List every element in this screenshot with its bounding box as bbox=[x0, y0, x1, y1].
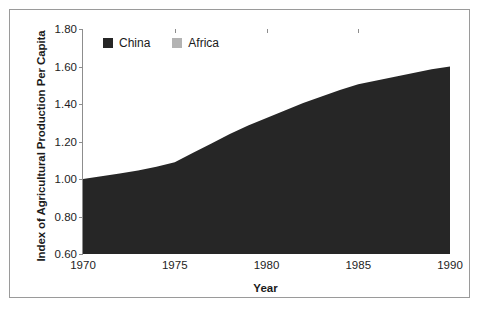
legend-item-africa: Africa bbox=[172, 37, 219, 49]
x-tick-label: 1990 bbox=[437, 259, 463, 271]
x-tick-mark bbox=[358, 29, 359, 33]
x-tick-mark bbox=[175, 29, 176, 33]
plot-area: 0.600.801.001.201.401.601.80 19701975198… bbox=[82, 29, 449, 254]
series-layer bbox=[83, 67, 450, 255]
y-tick-mark bbox=[79, 254, 83, 255]
y-tick-mark bbox=[79, 104, 83, 105]
x-tick-mark bbox=[267, 29, 268, 33]
area-chart-svg bbox=[83, 29, 450, 254]
y-tick-mark bbox=[79, 217, 83, 218]
x-tick-label: 1975 bbox=[162, 259, 188, 271]
legend-swatch-china bbox=[103, 38, 113, 48]
legend-label-china: China bbox=[119, 37, 150, 49]
y-tick-label: 0.80 bbox=[55, 211, 77, 223]
x-tick-label: 1985 bbox=[345, 259, 371, 271]
x-axis-title: Year bbox=[82, 282, 449, 294]
y-tick-label: 1.40 bbox=[55, 98, 77, 110]
y-tick-label: 1.80 bbox=[55, 23, 77, 35]
legend-label-africa: Africa bbox=[188, 37, 219, 49]
y-tick-mark bbox=[79, 179, 83, 180]
y-tick-mark bbox=[79, 29, 83, 30]
y-tick-mark bbox=[79, 142, 83, 143]
chart-legend: China Africa bbox=[103, 37, 219, 49]
chart-frame: Index of Agricultural Production Per Cap… bbox=[9, 9, 470, 298]
y-tick-label: 1.20 bbox=[55, 136, 77, 148]
area-series-china bbox=[83, 67, 450, 255]
legend-swatch-africa bbox=[172, 38, 182, 48]
x-tick-label: 1980 bbox=[254, 259, 280, 271]
y-axis-title: Index of Agricultural Production Per Cap… bbox=[35, 21, 47, 271]
y-tick-label: 1.00 bbox=[55, 173, 77, 185]
x-tick-label: 1970 bbox=[70, 259, 96, 271]
y-tick-mark bbox=[79, 67, 83, 68]
legend-item-china: China bbox=[103, 37, 150, 49]
y-tick-label: 1.60 bbox=[55, 61, 77, 73]
